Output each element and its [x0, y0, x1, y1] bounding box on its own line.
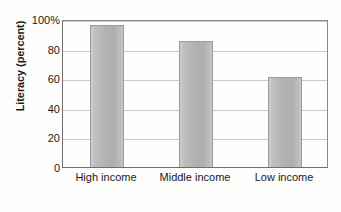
y-axis-tick-label: 0	[14, 163, 60, 174]
x-axis-tick-label-group: High incomeMiddle incomeLow income	[62, 171, 328, 211]
plot-area	[62, 20, 328, 168]
y-axis-tick-label: 80	[14, 44, 60, 55]
bar	[179, 41, 213, 167]
x-axis-tick-label: High income	[68, 171, 144, 184]
x-axis-tick-label: Middle income	[157, 171, 233, 184]
y-axis-tick-label-group: 100%806040200	[14, 0, 60, 212]
y-axis-tick-label: 100%	[14, 15, 60, 26]
bars-group	[63, 21, 327, 167]
y-axis-tick-label: 40	[14, 103, 60, 114]
y-axis-tick-label: 60	[14, 74, 60, 85]
bar	[90, 25, 124, 167]
literacy-bar-chart: Literacy (percent) 100%806040200 High in…	[0, 0, 341, 212]
y-axis-tick-label: 20	[14, 133, 60, 144]
x-axis-tick-label: Low income	[246, 171, 322, 184]
bar	[268, 77, 302, 167]
